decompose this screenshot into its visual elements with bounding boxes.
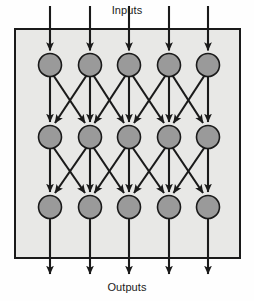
network-node — [39, 54, 62, 77]
figure-container: Inputs — [0, 0, 254, 301]
network-node — [197, 196, 220, 219]
network-node — [158, 196, 181, 219]
network-node — [158, 126, 181, 149]
network-node — [39, 126, 62, 149]
network-node — [118, 126, 141, 149]
network-node — [39, 196, 62, 219]
network-node — [197, 54, 220, 77]
network-node — [79, 196, 102, 219]
network-node — [158, 54, 181, 77]
network-node — [79, 54, 102, 77]
network-node — [197, 126, 220, 149]
network-diagram — [0, 0, 254, 301]
network-node — [79, 126, 102, 149]
network-node — [118, 196, 141, 219]
outputs-label: Outputs — [0, 281, 254, 293]
network-node — [118, 54, 141, 77]
